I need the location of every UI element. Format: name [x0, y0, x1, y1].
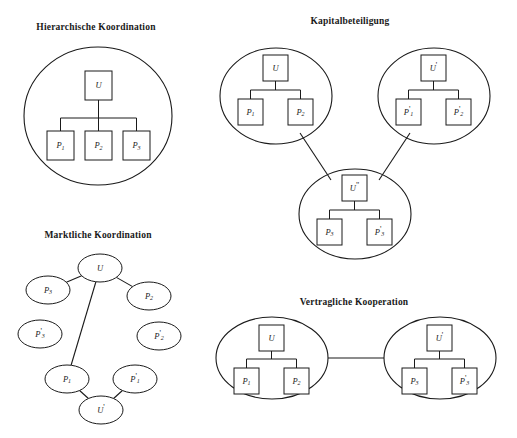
inter-group-link-link-right-to-bottom [379, 133, 410, 180]
org-group-group-u-doubleprime-bottom: U"P3P'3 [299, 169, 411, 259]
panel-title-hierarchische-koordination: Hierarchische Koordination [36, 22, 156, 32]
node-box-label-U: U [272, 62, 279, 72]
node-box-label-U: U [95, 80, 102, 90]
market-edge-edge-p1-uprime [80, 390, 89, 398]
node-box-label-U: U [268, 332, 275, 342]
panel-title-vertragliche-kooperation: Vertragliche Kooperation [300, 297, 409, 307]
panel-kapitalbeteiligung: KapitalbeteiligungUP1P2U'P'1P'2U"P3P'3 [220, 16, 490, 259]
market-edge-edge-uprime-p1prime [114, 390, 123, 398]
org-group-group-u-left: UP1P2 [220, 48, 332, 144]
diagram-root: Hierarchische KoordinationUP1P2P3Kapital… [0, 0, 517, 438]
market-edge-edge-u-p2 [116, 277, 132, 286]
panel-marktliche-koordination: Marktliche KoordinationUP3P2P'3P'2P1P'1U… [18, 230, 181, 424]
panel-hierarchische-koordination: Hierarchische KoordinationUP1P2P3 [24, 22, 172, 185]
inter-group-link-link-left-to-bottom [300, 133, 331, 180]
panel-title-marktliche-koordination: Marktliche Koordination [44, 230, 152, 240]
org-group-group-u: UP1P2P3 [24, 47, 172, 185]
market-edge-edge-u-p1 [71, 282, 96, 365]
panel-title-kapitalbeteiligung: Kapitalbeteiligung [310, 16, 389, 26]
market-node-label-node-u: U [97, 262, 104, 272]
panel-vertragliche-kooperation: Vertragliche KooperationUP1P2U'P3P'3 [216, 297, 496, 399]
org-group-group-u-prime-right-vk: U'P3P'3 [384, 317, 496, 399]
org-group-group-u-left-vk: UP1P2 [216, 317, 328, 399]
market-edge-edge-u-p3 [66, 276, 81, 282]
koordinationsformen-diagram: Hierarchische KoordinationUP1P2P3Kapital… [0, 0, 517, 438]
org-group-group-u-prime-right: U'P'1P'2 [378, 48, 490, 144]
market-panel-marktliche-koordination: UP3P2P'3P'2P1P'1U' [18, 254, 181, 424]
